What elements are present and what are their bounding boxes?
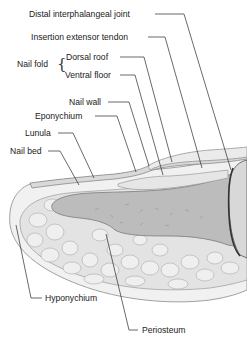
label-eponychium: Eponychium [35,111,82,121]
label-nail-fold: Nail fold [17,59,48,69]
label-periosteum: Periosteum [142,325,185,335]
leader-eponychium [95,116,136,172]
label-dorsal-roof: Dorsal roof [66,52,108,62]
leader-ventral-floor [120,75,163,175]
label-nail-bed: Nail bed [10,146,42,156]
label-hyponychium: Hyponychium [45,293,97,303]
label-insertion-extensor-tendon: Insertion extensor tendon [31,32,128,42]
label-nail-wall: Nail wall [69,97,101,107]
leader-nail-wall [108,102,149,166]
label-distal-interphalangeal-joint: Distal interphalangeal joint [29,9,130,19]
leader-distal-interphalangeal-joint [155,14,231,170]
label-lunula: Lunula [25,128,51,138]
leader-dorsal-roof [120,57,172,162]
label-ventral-floor: Ventral floor [65,70,111,80]
leader-lunula [58,133,94,178]
nail-anatomy-illustration [0,0,247,340]
